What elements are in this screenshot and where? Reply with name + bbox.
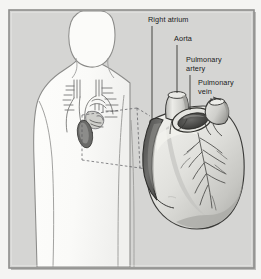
label-aorta-text: Aorta <box>174 34 193 43</box>
illustration-page: Right atrium Aorta Pulmonary artery <box>0 0 261 279</box>
label-pulmonary-vein-line2: vein <box>198 87 212 96</box>
label-right-atrium-text: Right atrium <box>148 15 189 24</box>
pulmonary-vein <box>205 98 229 124</box>
anatomy-figure: Right atrium Aorta Pulmonary artery <box>0 0 261 279</box>
label-pulmonary-vein-line1: Pulmonary <box>198 78 234 87</box>
label-pulmonary-artery-line2: artery <box>186 64 206 73</box>
label-pulmonary-artery-line1: Pulmonary <box>186 55 222 64</box>
